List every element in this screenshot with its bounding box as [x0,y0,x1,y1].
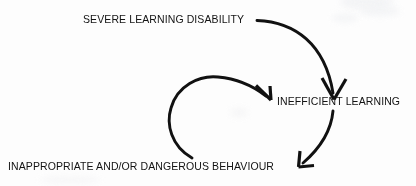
arrow-behaviour-to-inefficient [169,77,271,158]
arrow-layer [0,0,416,186]
arrow-inefficient-to-behaviour [299,111,334,167]
diagram-canvas: SEVERE LEARNING DISABILITY INEFFICIENT L… [0,0,416,186]
node-label-inefficient-learning: INEFFICIENT LEARNING [277,96,400,107]
node-label-severe-learning-disability: SEVERE LEARNING DISABILITY [83,14,244,25]
node-label-inappropriate-dangerous-behaviour: INAPPROPRIATE AND/OR DANGEROUS BEHAVIOUR [8,161,274,172]
